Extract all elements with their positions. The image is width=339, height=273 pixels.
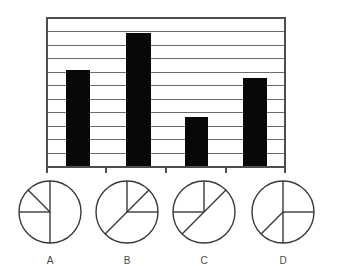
combined-figure: ABCD [0,0,339,273]
bar-chart-group [47,18,285,173]
pie-d-label: D [279,255,286,266]
bar-a [66,70,90,167]
pie-b-label: B [124,255,131,266]
bar-b [126,33,151,167]
pie-a-group: A [19,181,81,266]
pie-c-group: C [173,181,235,266]
bars [66,33,267,167]
pie-a-label: A [47,255,54,266]
bar-d [243,78,267,167]
pie-charts: ABCD [19,181,314,266]
pie-b-group: B [96,181,158,266]
bar-c [185,117,208,167]
x-axis [47,167,285,173]
pie-c-label: C [200,255,207,266]
pie-d-group: D [252,181,314,266]
figure-container: ABCD [0,0,339,273]
